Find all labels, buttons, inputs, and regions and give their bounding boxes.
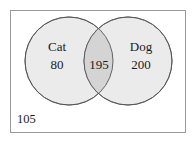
universe-outside-value: 105: [17, 112, 36, 126]
venn-diagram-canvas: Cat 80 195 Dog 200 105: [0, 0, 195, 142]
set-value-dog: 200: [131, 57, 151, 72]
set-value-cat: 80: [51, 57, 64, 72]
intersection-value: 195: [89, 57, 109, 72]
set-label-cat: Cat: [48, 39, 66, 54]
venn-diagram: Cat 80 195 Dog 200 105: [0, 0, 195, 142]
set-label-dog: Dog: [130, 39, 153, 54]
